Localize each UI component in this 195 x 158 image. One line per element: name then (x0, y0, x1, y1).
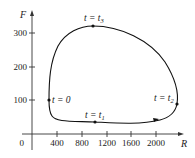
annotation-t3: t = t3 (84, 13, 104, 24)
origin-label: 0 (20, 138, 25, 148)
point-t3 (91, 24, 94, 27)
y-tick-200: 200 (14, 62, 28, 72)
annotation-t0: t = 0 (52, 95, 71, 105)
x-axis-label: R (180, 138, 187, 149)
annotation-t2: t = t2 (154, 93, 174, 104)
x-axis-arrow-icon (178, 132, 184, 136)
x-tick-2000: 2000 (147, 138, 166, 148)
point-t1 (93, 120, 96, 123)
axes (22, 14, 180, 150)
point-t0 (47, 98, 50, 101)
x-tick-1600: 1600 (122, 138, 141, 148)
x-tick-800: 800 (75, 138, 89, 148)
point-t2 (175, 102, 178, 105)
y-axis-arrow-icon (30, 10, 34, 16)
phase-plot: 300 200 100 0 400 800 1200 1600 2000 F R… (0, 0, 195, 158)
x-tick-1200: 1200 (98, 138, 117, 148)
x-tick-400: 400 (50, 138, 64, 148)
annotation-t1: t = t1 (85, 110, 105, 121)
trajectory-curve (49, 26, 178, 123)
y-tick-300: 300 (14, 28, 28, 38)
y-tick-100: 100 (14, 95, 28, 105)
y-axis-label: F (19, 9, 27, 20)
